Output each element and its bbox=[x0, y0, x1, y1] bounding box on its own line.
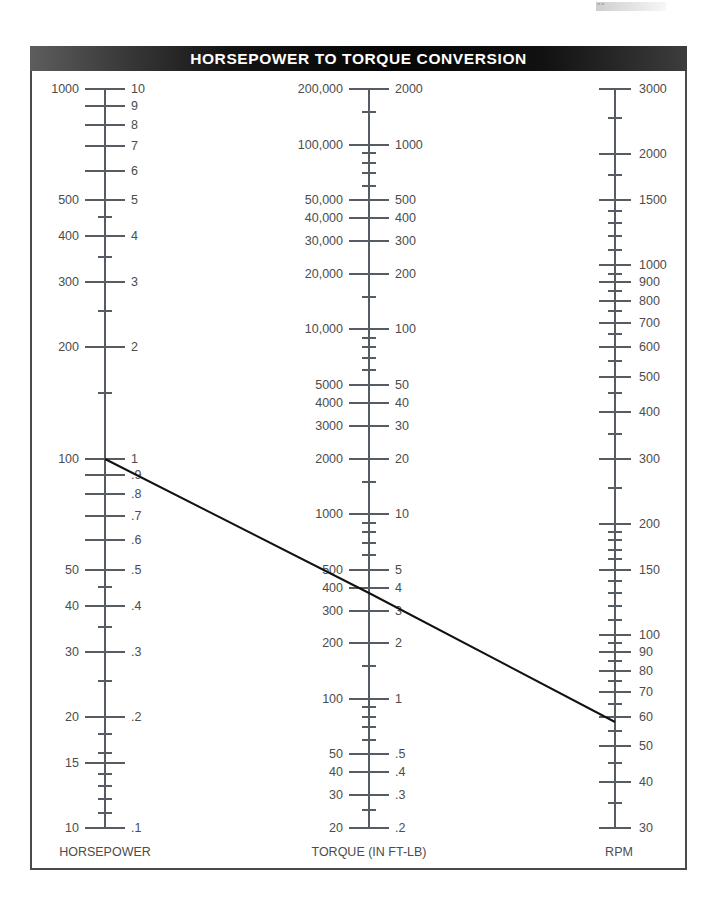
axis-tick-horsepower bbox=[85, 346, 125, 348]
tick-label-horsepower: 2 bbox=[131, 341, 138, 354]
axis-tick-rpm bbox=[599, 691, 631, 693]
axis-caption-torque: TORQUE (IN FT-LB) bbox=[311, 845, 426, 859]
axis-tick-torque bbox=[362, 554, 376, 556]
tick-label-torque: 30,000 bbox=[305, 235, 343, 248]
axis-tick-torque bbox=[362, 337, 376, 339]
axis-tick-torque bbox=[349, 753, 389, 755]
axis-tick-horsepower bbox=[98, 752, 112, 754]
tick-label-horsepower: 6 bbox=[131, 165, 138, 178]
axis-tick-horsepower bbox=[98, 626, 112, 628]
axis-tick-torque bbox=[362, 726, 376, 728]
axis-tick-rpm bbox=[608, 539, 622, 541]
tick-label-torque: 100,000 bbox=[298, 138, 343, 151]
tick-label-torque: 50 bbox=[329, 748, 343, 761]
axis-tick-torque bbox=[362, 172, 376, 174]
tick-label-horsepower: .7 bbox=[131, 509, 141, 522]
axis-tick-torque bbox=[349, 569, 389, 571]
axis-caption-horsepower: HORSEPOWER bbox=[59, 845, 151, 859]
tick-label-torque: 200 bbox=[395, 268, 416, 281]
axis-tick-rpm bbox=[608, 392, 622, 394]
tick-label-horsepower: 400 bbox=[58, 230, 79, 243]
axis-tick-rpm bbox=[608, 235, 622, 237]
tick-label-horsepower: .4 bbox=[131, 599, 141, 612]
axis-tick-rpm bbox=[608, 549, 622, 551]
tick-label-horsepower: .9 bbox=[131, 469, 141, 482]
tick-label-torque: 100 bbox=[395, 323, 416, 336]
page-title: HORSEPOWER TO TORQUE CONVERSION bbox=[190, 50, 527, 68]
axis-tick-horsepower bbox=[98, 733, 112, 735]
tick-label-rpm: 100 bbox=[639, 629, 660, 642]
tick-label-torque: 2000 bbox=[395, 83, 423, 96]
tick-label-torque: 20 bbox=[329, 822, 343, 835]
axis-tick-horsepower bbox=[85, 493, 125, 495]
tick-label-torque: 50,000 bbox=[305, 194, 343, 207]
axis-tick-rpm bbox=[599, 458, 631, 460]
tick-label-horsepower: 9 bbox=[131, 100, 138, 113]
tick-label-rpm: 40 bbox=[639, 776, 653, 789]
tick-label-torque: 4000 bbox=[315, 397, 343, 410]
axis-tick-torque bbox=[349, 144, 389, 146]
tick-label-torque: 20 bbox=[395, 452, 409, 465]
axis-tick-horsepower bbox=[85, 145, 125, 147]
axis-tick-rpm bbox=[608, 210, 622, 212]
axis-tick-horsepower bbox=[85, 88, 125, 90]
axis-tick-rpm bbox=[608, 680, 622, 682]
tick-label-torque: 40 bbox=[329, 766, 343, 779]
tick-label-horsepower: 1 bbox=[131, 452, 138, 465]
axis-tick-torque bbox=[362, 706, 376, 708]
axis-tick-rpm bbox=[608, 703, 622, 705]
tick-label-rpm: 1500 bbox=[639, 194, 667, 207]
axis-tick-horsepower bbox=[98, 586, 112, 588]
axis-tick-rpm bbox=[608, 642, 622, 644]
tick-label-horsepower: 500 bbox=[58, 194, 79, 207]
axis-tick-torque bbox=[362, 346, 376, 348]
axis-tick-torque bbox=[362, 665, 376, 667]
tick-label-horsepower: .8 bbox=[131, 488, 141, 501]
axis-tick-horsepower bbox=[85, 458, 125, 460]
axis-tick-horsepower bbox=[85, 515, 125, 517]
axis-tick-torque bbox=[349, 199, 389, 201]
tick-label-horsepower: .3 bbox=[131, 645, 141, 658]
axis-tick-rpm bbox=[608, 605, 622, 607]
axis-tick-rpm bbox=[608, 762, 622, 764]
tick-label-torque: 30 bbox=[395, 420, 409, 433]
axis-tick-rpm bbox=[599, 281, 631, 283]
tick-label-horsepower: 20 bbox=[65, 711, 79, 724]
tick-label-horsepower: .1 bbox=[131, 822, 141, 835]
axis-tick-torque bbox=[349, 273, 389, 275]
axis-tick-torque bbox=[349, 610, 389, 612]
tick-label-rpm: 600 bbox=[639, 341, 660, 354]
axis-tick-rpm bbox=[599, 716, 631, 718]
axis-tick-rpm bbox=[599, 88, 631, 90]
tick-label-torque: 10,000 bbox=[305, 323, 343, 336]
axis-tick-torque bbox=[362, 357, 376, 359]
axis-tick-torque bbox=[362, 739, 376, 741]
axis-tick-rpm bbox=[608, 433, 622, 435]
tick-label-torque: 40 bbox=[395, 397, 409, 410]
tick-label-rpm: 1000 bbox=[639, 259, 667, 272]
tick-label-torque: 2 bbox=[395, 637, 402, 650]
axis-tick-torque bbox=[349, 425, 389, 427]
axis-tick-horsepower bbox=[85, 235, 125, 237]
tick-label-torque: 100 bbox=[322, 693, 343, 706]
tick-label-torque: 200,000 bbox=[298, 83, 343, 96]
tick-label-torque: 1000 bbox=[315, 508, 343, 521]
tick-label-torque: 50 bbox=[395, 379, 409, 392]
axis-tick-torque bbox=[349, 402, 389, 404]
tick-label-rpm: 50 bbox=[639, 740, 653, 753]
axis-tick-rpm bbox=[608, 802, 622, 804]
tick-label-horsepower: 40 bbox=[65, 599, 79, 612]
axis-tick-torque bbox=[362, 111, 376, 113]
axis-tick-horsepower bbox=[98, 812, 112, 814]
tick-label-torque: 3 bbox=[395, 604, 402, 617]
tick-label-horsepower: 15 bbox=[65, 757, 79, 770]
tick-label-rpm: 900 bbox=[639, 276, 660, 289]
axis-tick-torque bbox=[362, 481, 376, 483]
scan-artifact bbox=[596, 2, 666, 11]
axis-tick-horsepower bbox=[85, 716, 125, 718]
axis-tick-rpm bbox=[599, 346, 631, 348]
tick-label-torque: 400 bbox=[322, 581, 343, 594]
axis-tick-torque bbox=[349, 698, 389, 700]
axis-tick-torque bbox=[349, 240, 389, 242]
tick-label-horsepower: .6 bbox=[131, 534, 141, 547]
